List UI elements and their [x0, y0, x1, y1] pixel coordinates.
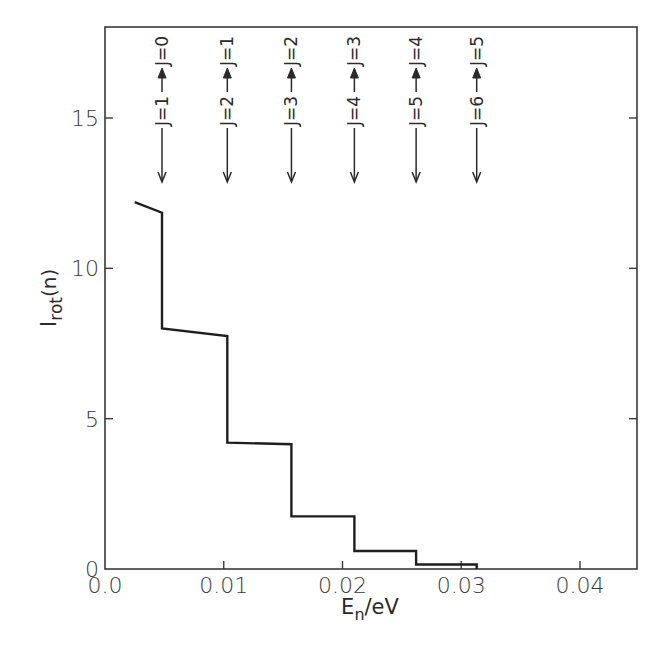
- ylabel-sub: rot: [46, 297, 66, 321]
- svg-text:En/eV: En/eV: [341, 595, 399, 624]
- transition-to: J=3: [344, 36, 364, 67]
- transition-from: J=1: [152, 96, 172, 127]
- y-tick-label: 10: [71, 256, 99, 281]
- transition-to: J=0: [152, 36, 172, 67]
- transition-label: J=2J=1: [217, 36, 237, 182]
- transition-from: J=2: [217, 96, 237, 127]
- y-tick-label: 0: [85, 557, 99, 582]
- y-axis-title: Irot(n): [36, 269, 66, 327]
- transition-from: J=6: [467, 96, 487, 127]
- transition-label: J=4J=3: [344, 36, 364, 182]
- data-series: [135, 202, 477, 569]
- transition-label: J=3J=2: [281, 36, 301, 182]
- x-tick-label: 0.03: [437, 573, 486, 598]
- transition-label: J=5J=4: [406, 36, 426, 182]
- xlabel-tail: /eV: [365, 595, 400, 619]
- plot-frame: [105, 27, 637, 569]
- x-tick-label: 0.01: [199, 573, 248, 598]
- transition-to: J=5: [467, 36, 487, 67]
- chart: 0.00.010.020.030.04 051015 J=1J=0J=2J=1J…: [0, 0, 669, 655]
- x-axis-title: En/eV: [341, 595, 399, 624]
- transition-to: J=4: [406, 36, 426, 67]
- transition-annotations: J=1J=0J=2J=1J=3J=2J=4J=3J=5J=4J=6J=5: [152, 36, 487, 182]
- x-tick-label: 0.04: [556, 573, 605, 598]
- transition-to: J=1: [217, 36, 237, 67]
- transition-from: J=4: [344, 96, 364, 127]
- svg-text:Irot(n): Irot(n): [36, 269, 66, 327]
- xlabel-main: E: [341, 595, 354, 619]
- transition-label: J=6J=5: [467, 36, 487, 182]
- transition-from: J=5: [406, 96, 426, 127]
- transition-label: J=1J=0: [152, 36, 172, 182]
- y-tick-label: 15: [71, 106, 99, 131]
- transition-from: J=3: [281, 96, 301, 127]
- ylabel-tail: (n): [37, 269, 61, 297]
- transition-to: J=2: [281, 36, 301, 67]
- xlabel-sub: n: [354, 605, 364, 624]
- step-line: [135, 202, 477, 569]
- y-tick-label: 5: [85, 407, 99, 432]
